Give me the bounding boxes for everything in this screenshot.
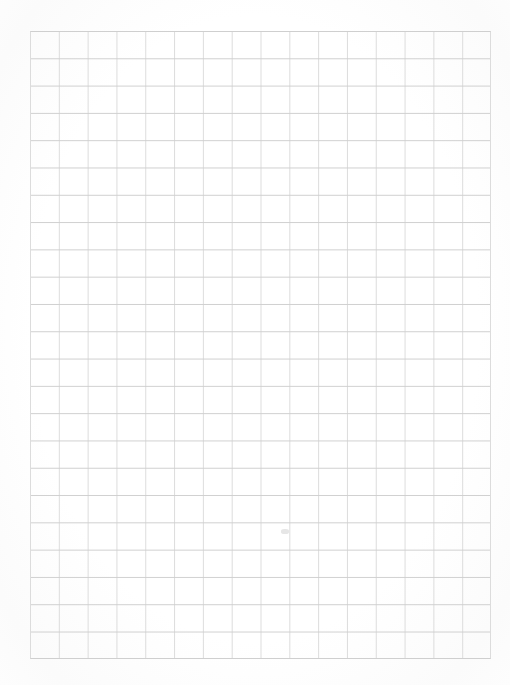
grid-vertical-lines — [30, 31, 491, 659]
grid-border-frame — [30, 31, 491, 659]
paper-sheet — [0, 0, 510, 685]
grid-horizontal-lines — [30, 31, 491, 659]
grid-ruled-area — [30, 31, 491, 659]
